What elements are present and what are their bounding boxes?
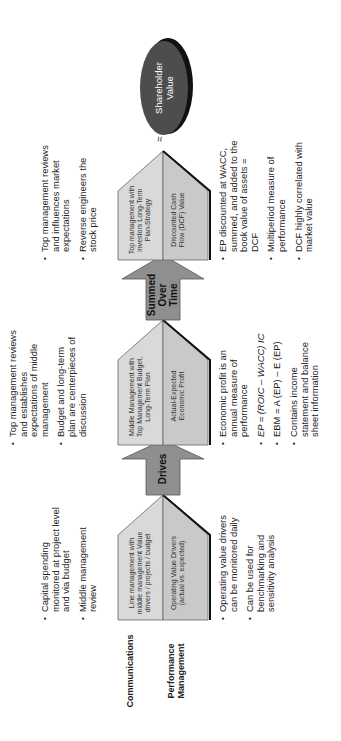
stage-1-communications: Capital spending monitored at project le…: [40, 505, 105, 620]
bullet: EBM = A (EP) – E (EP): [272, 327, 283, 445]
shareholder-value-label: Shareholder Value: [153, 53, 175, 123]
bullet: Top management reviews and establishes e…: [8, 330, 50, 445]
summed-over-time-label: Summed Over Time: [146, 273, 179, 317]
stage-1-top-text: Line management with middle management V…: [120, 529, 160, 617]
value-diagram: Communications Performance Management: [0, 0, 341, 741]
bullet: Capital spending monitored at project le…: [40, 505, 72, 620]
bullet: EP = (ROIC – WACC) IC: [256, 327, 267, 445]
stage-3-performance: EP discounted at WACC, summed, and added…: [218, 140, 321, 260]
stage-1-bottom-text: Operating Value Drivers (actual vs. expe…: [170, 529, 186, 617]
bullet: Can be used for benchmarking and sensiti…: [245, 505, 277, 620]
bullet: EP discounted at WACC, summed, and added…: [218, 140, 260, 260]
approx-icon: ≈: [154, 133, 165, 145]
stage-2-performance: Economic profit is an annual measure of …: [218, 327, 327, 445]
bullet: Contains income statement and balance sh…: [289, 327, 321, 445]
drives-label: Drives: [157, 449, 168, 489]
stage-2-communications: Top management reviews and establishes e…: [8, 330, 94, 445]
stage-2-top-text: Middle Management with Top Management Bu…: [120, 352, 160, 442]
bullet: Economic profit is an annual measure of …: [218, 327, 250, 445]
stage-1-performance: Operating value drivers can be monitored…: [218, 505, 283, 620]
bullet: Middle management review: [78, 505, 99, 620]
bullet: Operating value drivers can be monitored…: [218, 505, 239, 620]
stage-3-bottom-text: Discounted Cash Flow (DCF) Value: [170, 185, 186, 255]
bullet: Top management reviews and influences ma…: [40, 145, 72, 260]
bullet: Multiperiod measure of performance: [266, 140, 287, 260]
stage-3-top-text: Top management with investors Long-Term …: [120, 182, 160, 258]
bullet: DCF highly correlated with market value: [294, 140, 315, 260]
bullet: Budget and long-term plan are centerpiec…: [56, 330, 88, 445]
stage-3-communications: Top management reviews and influences ma…: [40, 145, 105, 260]
bullet: Reverse engineers the stock price: [78, 145, 99, 260]
stage-2-bottom-text: Actual-Expected Economic Profit: [170, 361, 186, 431]
